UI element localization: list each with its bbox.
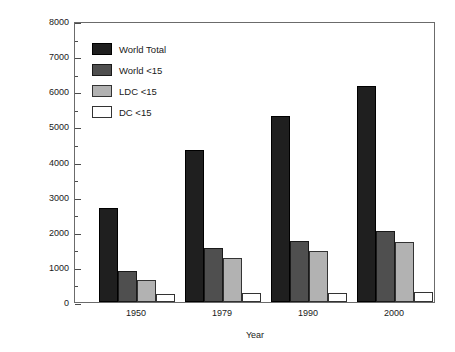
bar-chart-figure: Population (Millions) 010002000300040005… [0,0,455,352]
y-tick-minor-mark [75,146,78,147]
y-tick-minor-mark [75,111,78,112]
bar [156,294,175,302]
bar [376,231,395,302]
bar [204,248,223,302]
y-tick-mark [75,58,81,59]
bar [395,242,414,302]
y-tick-mark [75,23,81,24]
legend-swatch-icon [92,43,112,55]
y-tick-label: 5000 [29,122,69,132]
legend-label: LDC <15 [119,86,157,97]
y-tick-mark [75,269,81,270]
y-tick-label: 6000 [29,87,69,97]
y-tick-label: 7000 [29,52,69,62]
y-tick-minor-mark [75,286,78,287]
legend-item: World Total [92,40,166,58]
y-tick-label: 3000 [29,193,69,203]
bar [242,293,261,302]
legend-label: DC <15 [119,107,151,118]
y-tick-mark [75,199,81,200]
y-tick-minor-mark [75,41,78,42]
y-tick-mark [75,164,81,165]
y-tick-label: 4000 [29,158,69,168]
x-tick-label: 1990 [273,308,343,318]
chart-legend: World TotalWorld <15LDC <15DC <15 [92,40,166,124]
bar [328,293,347,302]
x-tick-label: 2000 [359,308,429,318]
x-tick-label: 1979 [187,308,257,318]
legend-label: World <15 [119,65,162,76]
y-tick-label: 8000 [29,17,69,27]
bar [118,271,137,302]
y-tick-minor-mark [75,181,78,182]
x-axis-title: Year [74,330,436,340]
bar [99,208,118,302]
y-tick-label: 2000 [29,228,69,238]
bar [137,280,156,302]
y-tick-minor-mark [75,251,78,252]
legend-label: World Total [119,44,166,55]
legend-swatch-icon [92,106,112,118]
bar [357,86,376,302]
y-tick-label: 1000 [29,263,69,273]
legend-item: DC <15 [92,103,166,121]
y-tick-mark [75,93,81,94]
bar [223,258,242,302]
bar [414,292,433,302]
y-tick-mark [75,304,81,305]
y-tick-minor-mark [75,76,78,77]
legend-swatch-icon [92,85,112,97]
x-tick-label: 1950 [101,308,171,318]
y-tick-label: 0 [29,298,69,308]
bar [309,251,328,302]
legend-item: World <15 [92,61,166,79]
y-tick-mark [75,234,81,235]
bar [271,116,290,302]
y-tick-mark [75,128,81,129]
legend-swatch-icon [92,64,112,76]
legend-item: LDC <15 [92,82,166,100]
y-tick-minor-mark [75,216,78,217]
bar [290,241,309,302]
bar [185,150,204,302]
